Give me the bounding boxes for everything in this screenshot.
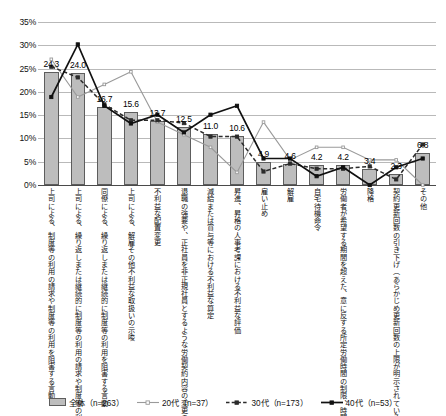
category-text: その他: [419, 188, 427, 384]
data-point-marker: [262, 170, 265, 173]
legend-line-swatch: [321, 398, 343, 407]
axis-baseline: [38, 185, 436, 186]
data-point-marker: [182, 131, 185, 134]
data-point-marker: [262, 121, 265, 124]
x-axis-category-label: 降格: [356, 188, 383, 384]
data-point-marker: [421, 157, 424, 160]
legend-label: 30代（n=173）: [251, 396, 307, 408]
category-text: 降格: [366, 188, 374, 384]
data-point-marker: [368, 183, 371, 186]
legend-item-40代[interactable]: 40代（n=53）: [321, 396, 398, 408]
x-axis-category-label: 退職の強要や、正社員を非正規社員とするような労働契約内容の変更の強要: [171, 188, 198, 384]
data-point-marker: [315, 175, 318, 178]
y-axis-tick-label: 35%: [2, 17, 36, 27]
y-axis-tick-label: 10%: [2, 133, 36, 143]
data-point-marker: [76, 43, 79, 46]
data-point-marker: [50, 95, 53, 98]
y-axis-tick-label: 30%: [2, 40, 36, 50]
legend-label: 20代（n=37）: [162, 396, 214, 408]
legend-label: 全体（n=263）: [69, 396, 124, 408]
x-axis-category-label: 雇い止め: [250, 188, 277, 384]
data-point-marker: [103, 83, 106, 86]
x-axis-category-label: 不利益な配置変更: [144, 188, 171, 384]
x-axis-category-label: 自宅待機命令: [303, 188, 330, 384]
data-point-marker: [315, 167, 318, 170]
y-axis-tick-label: 0%: [2, 180, 36, 190]
legend-bar-swatch: [49, 398, 66, 406]
category-text: 昇進、昇格の人事考課における不利益な評価: [233, 188, 241, 384]
legend-line-swatch: [137, 398, 159, 407]
bar-data-label: 10.6: [229, 123, 245, 133]
legend-label: 40代（n=53）: [346, 396, 398, 408]
bar-data-label: 11.0: [203, 121, 218, 131]
plot-area: 24.324.016.715.613.712.511.010.64.94.64.…: [38, 22, 436, 185]
data-point-marker: [209, 146, 212, 149]
category-text: 不利益な配置変更: [153, 188, 161, 384]
data-point-marker: [235, 135, 238, 138]
x-axis-category-label: 解雇: [277, 188, 304, 384]
bar-data-label: 15.6: [123, 99, 139, 109]
data-point-marker: [315, 146, 318, 149]
category-text: 上司による、繰り返しまたは継続的に制度等の利用の請求や制度等の利用を阻害する言動: [74, 188, 82, 384]
bar-data-label: 3.4: [364, 156, 375, 166]
data-point-marker: [77, 96, 80, 99]
x-axis-category-label: その他: [409, 188, 436, 384]
x-axis-category-label: 昇進、昇格の人事考課における不利益な評価: [224, 188, 251, 384]
category-text: 減給または賞与等における不利益な算定: [206, 188, 214, 384]
x-axis-category-label: 減給または賞与等における不利益な算定: [197, 188, 224, 384]
bar-data-label: 12.5: [176, 114, 192, 124]
x-axis-category-label: 上司による、解雇その他不利益な取扱いの示唆: [118, 188, 145, 384]
x-axis-category-label: 同僚による、繰り返しまたは継続的に制度等の利用を阻害する言動: [91, 188, 118, 384]
category-text: 解雇: [286, 188, 294, 384]
category-text: 雇い止め: [260, 188, 268, 384]
bar-data-label: 2.3: [391, 161, 402, 171]
legend-line-swatch: [226, 398, 248, 407]
x-axis-category-label: 上司による、繰り返しまたは継続的に制度等の利用の請求や制度等の利用を阻害する言動: [65, 188, 92, 384]
data-point-marker: [156, 119, 159, 122]
bar-data-label: 13.7: [150, 108, 166, 118]
category-text: 退職の強要や、正社員を非正規社員とするような労働契約内容の変更の強要: [180, 188, 188, 384]
x-axis-category-label: 上司による、制度等の利用の請求や制度等の利用を阻害する言動: [38, 188, 65, 384]
y-axis-tick-labels: 0%5%10%15%20%25%30%35%: [0, 22, 36, 185]
data-point-marker: [289, 162, 292, 165]
category-text: 上司による、制度等の利用の請求や制度等の利用を阻害する言動: [47, 188, 55, 384]
bar-data-label: 24.3: [43, 59, 59, 69]
category-text: 上司による、解雇その他不利益な取扱いの示唆: [127, 188, 135, 384]
data-point-marker: [342, 146, 345, 149]
bar-data-label: 4.9: [258, 149, 269, 159]
chart-page: 0%5%10%15%20%25%30%35% 24.324.016.715.61…: [0, 0, 446, 416]
data-point-marker: [209, 135, 212, 138]
legend-item-30代[interactable]: 30代（n=173）: [226, 396, 307, 408]
bar-data-label: 6.8: [417, 140, 428, 150]
data-point-marker: [130, 71, 133, 74]
category-text: 労働者が希望する期間を超えた、意に反する所定労働時間の制限、時間外労働の制限等の…: [339, 188, 347, 384]
bar-data-label: 4.6: [284, 151, 295, 161]
bar-data-label: 4.2: [311, 152, 322, 162]
y-axis-tick-label: 5%: [2, 157, 36, 167]
legend-item-zentai[interactable]: 全体（n=263）: [49, 396, 124, 408]
y-axis-tick-label: 25%: [2, 64, 36, 74]
category-text: 契約更新回数の引き下げ（あらかじめ更新回数の上限が明示されている場合）: [392, 188, 400, 384]
bar-data-label: 24.0: [70, 60, 86, 70]
data-point-marker: [209, 113, 212, 116]
data-point-marker: [76, 76, 79, 79]
bar-data-label: 16.7: [96, 94, 112, 104]
data-point-marker: [235, 104, 238, 107]
category-text: 同僚による、繰り返しまたは継続的に制度等の利用を阻害する言動: [100, 188, 108, 384]
legend-item-20代[interactable]: 20代（n=37）: [137, 396, 214, 408]
bar-data-label: 4.2: [338, 152, 349, 162]
data-point-marker: [129, 119, 132, 122]
data-point-marker: [103, 104, 106, 107]
y-axis-tick-label: 20%: [2, 87, 36, 97]
data-point-marker: [342, 166, 345, 169]
x-axis-category-label: 契約更新回数の引き下げ（あらかじめ更新回数の上限が明示されている場合）: [383, 188, 410, 384]
chart-legend: 全体（n=263）20代（n=37）30代（n=173）40代（n=53）: [0, 392, 446, 412]
y-axis-tick-label: 15%: [2, 110, 36, 120]
x-axis-category-label: 労働者が希望する期間を超えた、意に反する所定労働時間の制限、時間外労働の制限等の…: [330, 188, 357, 384]
data-point-marker: [395, 178, 398, 181]
data-point-marker: [129, 122, 132, 125]
data-point-marker: [421, 184, 424, 187]
x-axis-category-labels: 上司による、制度等の利用の請求や制度等の利用を阻害する言動上司による、繰り返しま…: [38, 188, 436, 384]
category-text: 自宅待機命令: [313, 188, 321, 384]
data-point-marker: [236, 171, 239, 174]
